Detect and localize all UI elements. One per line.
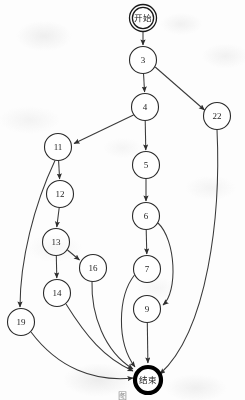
node-11-label: 11	[54, 142, 63, 152]
caption-layer: 图	[118, 391, 127, 400]
node-19-label: 19	[17, 317, 27, 327]
node-12[interactable]: 12	[47, 181, 74, 208]
node-12-label: 12	[56, 189, 65, 199]
node-7[interactable]: 7	[134, 256, 161, 283]
node-6-label: 6	[144, 211, 149, 221]
edge-13-to-16	[68, 250, 80, 260]
node-13[interactable]: 13	[43, 229, 70, 256]
node-16[interactable]: 16	[80, 255, 107, 282]
edge-22-to-end	[160, 130, 218, 375]
node-end[interactable]: 结束	[135, 367, 161, 393]
edge-9-to-end	[147, 323, 148, 364]
edge-13-to-14	[56, 256, 57, 279]
node-11[interactable]: 11	[45, 134, 72, 161]
node-5-label: 5	[144, 160, 149, 170]
node-9[interactable]: 9	[134, 296, 161, 323]
edge-6-to-9	[158, 223, 173, 305]
node-14[interactable]: 14	[44, 280, 71, 307]
edge-4-to-5	[145, 121, 146, 151]
edge-16-to-end	[92, 282, 133, 370]
node-7-label: 7	[145, 264, 150, 274]
figure-canvas: 开始 3 4 22 11 5	[0, 0, 245, 400]
edge-11-to-12	[59, 161, 60, 180]
edge-12-to-13	[57, 208, 59, 228]
edge-7-to-end	[121, 275, 135, 367]
node-13-label: 13	[52, 237, 62, 247]
node-22-label: 22	[213, 111, 222, 121]
node-5[interactable]: 5	[133, 152, 160, 179]
edge-6-to-7	[146, 230, 147, 255]
nodes-layer: 开始 3 4 22 11 5	[8, 5, 231, 394]
node-4-label: 4	[143, 102, 148, 112]
edge-3-to-4	[144, 74, 145, 93]
edge-19-to-end	[31, 332, 133, 379]
node-9-label: 9	[145, 304, 150, 314]
node-14-label: 14	[53, 288, 63, 298]
node-22[interactable]: 22	[204, 103, 231, 130]
node-16-label: 16	[89, 263, 99, 273]
node-start-label: 开始	[134, 13, 152, 23]
node-4[interactable]: 4	[132, 94, 159, 121]
node-3[interactable]: 3	[130, 47, 157, 74]
edge-3-to-22	[155, 67, 204, 110]
figure-caption: 图	[118, 391, 127, 400]
flowchart-graph: 开始 3 4 22 11 5	[0, 0, 245, 400]
node-end-label: 结束	[139, 375, 157, 385]
edge-4-to-11	[74, 115, 134, 144]
node-3-label: 3	[141, 55, 146, 65]
node-19[interactable]: 19	[8, 309, 35, 336]
node-6[interactable]: 6	[133, 203, 160, 230]
edges-layer	[20, 32, 218, 379]
node-start[interactable]: 开始	[130, 5, 157, 32]
